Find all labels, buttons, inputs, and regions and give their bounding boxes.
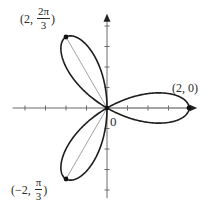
- y-axis-arrow-icon: [104, 14, 111, 22]
- fraction-pi-over-3: π 3: [35, 177, 43, 202]
- fraction-2pi-over-3: 2π 3: [37, 6, 50, 31]
- fraction-numerator: π: [35, 177, 43, 190]
- label-point-top: (2, 2π 3 ): [20, 6, 55, 31]
- fraction-denominator: 3: [35, 190, 43, 202]
- label-close: ): [43, 183, 47, 197]
- point-marker: [187, 106, 192, 111]
- origin-point: [105, 106, 109, 110]
- point-marker: [64, 35, 69, 40]
- fraction-numerator: 2π: [37, 6, 50, 19]
- label-close: ): [51, 12, 55, 26]
- label-open: (2,: [20, 12, 33, 26]
- label-2-0: (2, 0): [172, 81, 198, 95]
- fraction-denominator: 3: [37, 19, 50, 31]
- point-marker: [64, 177, 69, 182]
- origin-label: 0: [110, 115, 117, 128]
- origin-zero: 0: [110, 114, 117, 129]
- label-point-right: (2, 0): [172, 82, 198, 94]
- label-open: (−2,: [11, 183, 31, 197]
- label-point-bottom: (−2, π 3 ): [11, 177, 47, 202]
